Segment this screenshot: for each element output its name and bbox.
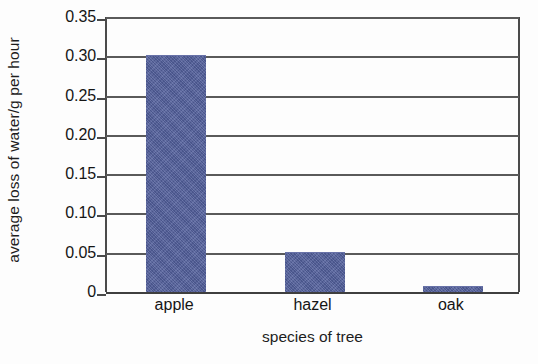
y-axis-tick-label: 0.20 bbox=[65, 126, 96, 144]
gridline bbox=[106, 292, 519, 294]
y-axis-tick-label: 0.05 bbox=[65, 244, 96, 262]
bar-oak bbox=[423, 286, 483, 293]
x-axis-tick-label-apple: apple bbox=[155, 296, 194, 314]
y-axis-tick-label: 0.15 bbox=[65, 165, 96, 183]
x-axis-tick-labels: applehazeloak bbox=[105, 296, 520, 322]
bar-apple bbox=[146, 55, 206, 292]
y-axis-tick-mark bbox=[97, 215, 106, 217]
x-axis-tick-label-oak: oak bbox=[438, 296, 464, 314]
y-axis-tick-label: 0.10 bbox=[65, 204, 96, 222]
y-axis-tick-mark bbox=[97, 137, 106, 139]
y-axis-tick-label: 0.25 bbox=[65, 87, 96, 105]
y-axis-tick-mark bbox=[97, 98, 106, 100]
y-axis-tick-mark bbox=[97, 255, 106, 257]
y-axis-tick-mark bbox=[97, 58, 106, 60]
y-axis-title: average loss of water/g per hour bbox=[0, 0, 28, 300]
x-axis-tick-label-hazel: hazel bbox=[293, 296, 331, 314]
x-axis-title: species of tree bbox=[105, 328, 520, 346]
y-axis-title-text: average loss of water/g per hour bbox=[5, 37, 23, 263]
y-axis-tick-labels: 00.050.100.150.200.250.300.35 bbox=[28, 10, 98, 300]
bar-chart-figure: average loss of water/g per hour 00.050.… bbox=[0, 0, 538, 364]
y-axis-tick-label: 0.30 bbox=[65, 47, 96, 65]
bars-group bbox=[107, 17, 518, 292]
y-axis-tick-label: 0.35 bbox=[65, 8, 96, 26]
y-axis-tick-mark bbox=[97, 176, 106, 178]
plot-area bbox=[105, 17, 520, 292]
y-axis-tick-label: 0 bbox=[87, 283, 96, 301]
bar-hazel bbox=[285, 252, 345, 292]
y-axis-tick-mark bbox=[97, 19, 106, 21]
